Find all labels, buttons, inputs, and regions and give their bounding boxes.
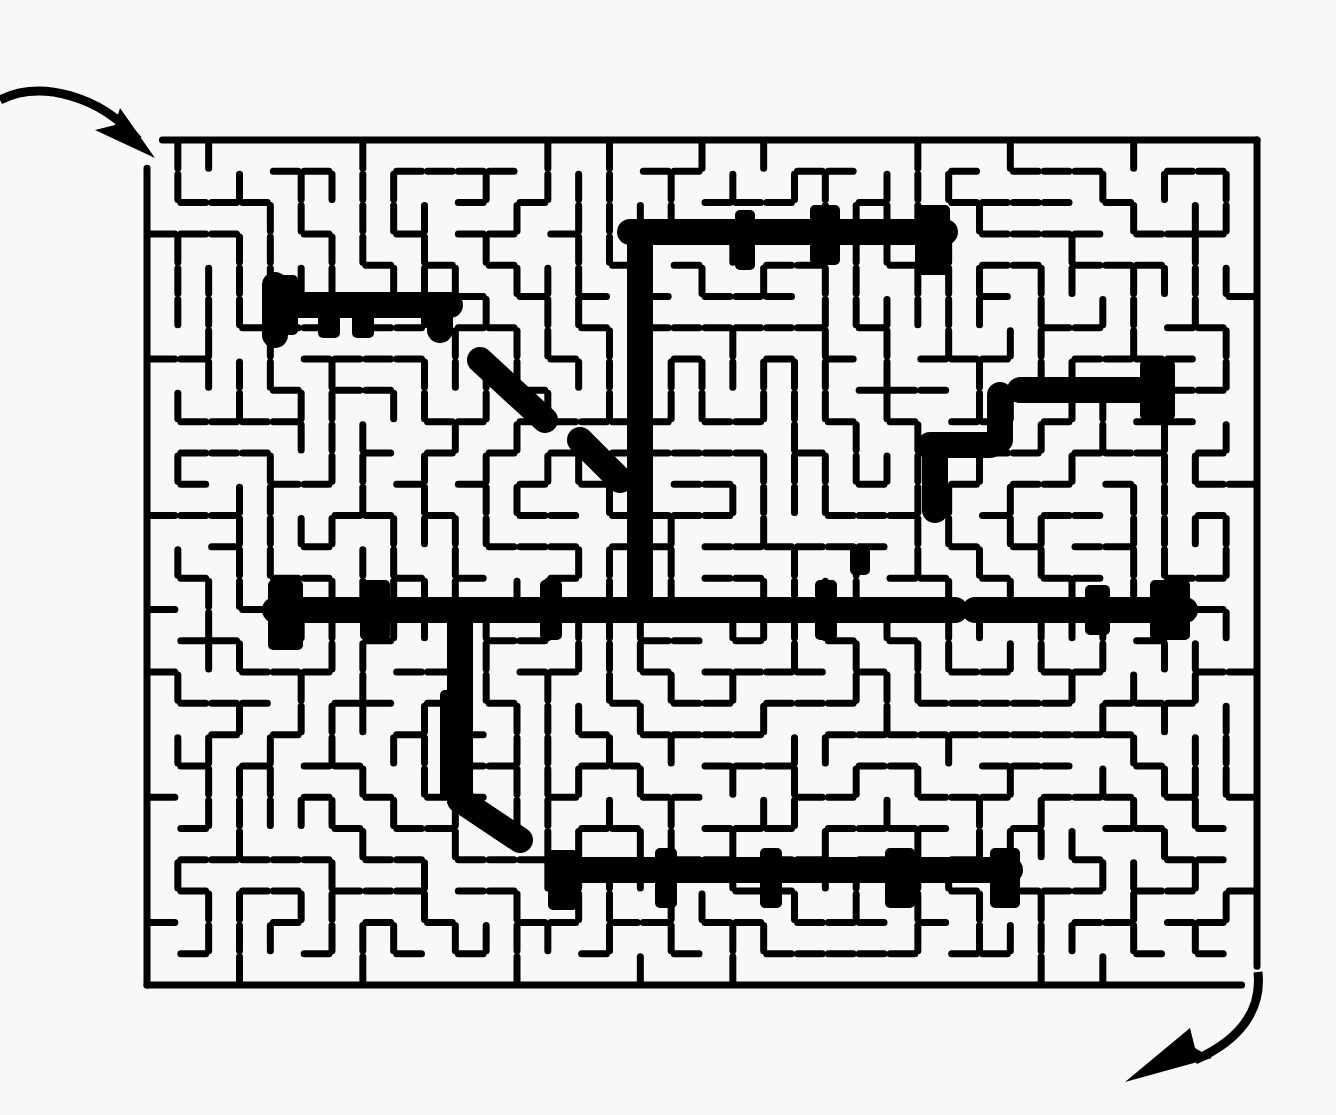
maze-puzzle <box>0 0 1336 1115</box>
maze-walls <box>150 143 1254 982</box>
entrance-arrow-icon <box>0 91 155 158</box>
maze-svg <box>0 0 1336 1115</box>
dead-end-blobs <box>268 205 1190 910</box>
